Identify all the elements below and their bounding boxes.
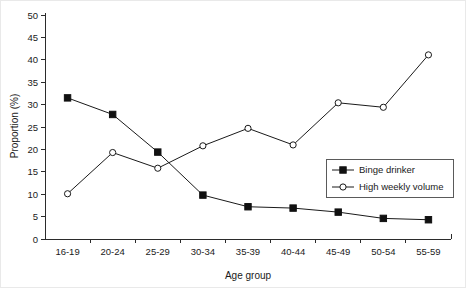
- data-point-marker: [380, 215, 386, 221]
- x-axis-tick-label: 30-34: [191, 246, 215, 257]
- x-axis-tick-label: 45-49: [326, 246, 350, 257]
- legend-item-label: Binge drinker: [359, 164, 415, 175]
- data-point-marker: [335, 100, 341, 106]
- y-axis-tick-label: 40: [27, 54, 38, 65]
- data-point-marker: [110, 149, 116, 155]
- data-point-marker: [109, 111, 115, 117]
- data-point-marker: [155, 165, 161, 171]
- x-axis-tick-label: 50-54: [371, 246, 395, 257]
- x-axis-tick-label: 55-59: [416, 246, 440, 257]
- data-point-marker: [335, 209, 341, 215]
- y-axis-tick-label: 10: [27, 189, 38, 200]
- legend-marker-open-circle: [340, 184, 346, 190]
- y-axis-title: Proportion (%): [9, 94, 20, 158]
- y-axis-tick-label: 30: [27, 99, 38, 110]
- line-chart: 05101520253035404550 16-1920-2425-2930-3…: [1, 1, 466, 288]
- data-point-marker: [155, 149, 161, 155]
- data-point-marker: [290, 205, 296, 211]
- y-axis: 05101520253035404550: [27, 10, 45, 245]
- data-point-marker: [200, 192, 206, 198]
- chart-figure: 05101520253035404550 16-1920-2425-2930-3…: [0, 0, 466, 288]
- x-axis-tick-label: 16-19: [55, 246, 79, 257]
- x-axis-title: Age group: [225, 270, 272, 281]
- y-axis-tick-label: 20: [27, 144, 38, 155]
- data-point-marker: [425, 217, 431, 223]
- x-axis-tick-label: 20-24: [101, 246, 125, 257]
- y-axis-tick-label: 50: [27, 10, 38, 21]
- data-point-marker: [64, 191, 70, 197]
- x-axis: 16-1920-2425-2930-3435-3940-4445-4950-54…: [45, 234, 451, 257]
- x-axis-tick-label: 35-39: [236, 246, 260, 257]
- data-point-marker: [200, 143, 206, 149]
- legend-item-label: High weekly volume: [359, 181, 443, 192]
- y-axis-tick-label: 45: [27, 32, 38, 43]
- x-axis-tick-label: 25-29: [146, 246, 170, 257]
- legend-marker-filled-square: [340, 167, 346, 173]
- chart-legend: Binge drinkerHigh weekly volume: [326, 159, 453, 197]
- y-axis-tick-label: 25: [27, 122, 38, 133]
- x-axis-tick-label: 40-44: [281, 246, 305, 257]
- y-axis-tick-label: 5: [33, 211, 38, 222]
- y-axis-tick-label: 0: [33, 234, 38, 245]
- data-point-marker: [245, 204, 251, 210]
- data-point-marker: [245, 125, 251, 131]
- y-axis-tick-label: 35: [27, 77, 38, 88]
- y-axis-tick-label: 15: [27, 166, 38, 177]
- data-point-marker: [290, 142, 296, 148]
- data-point-marker: [64, 95, 70, 101]
- data-point-marker: [380, 104, 386, 110]
- data-point-marker: [425, 52, 431, 58]
